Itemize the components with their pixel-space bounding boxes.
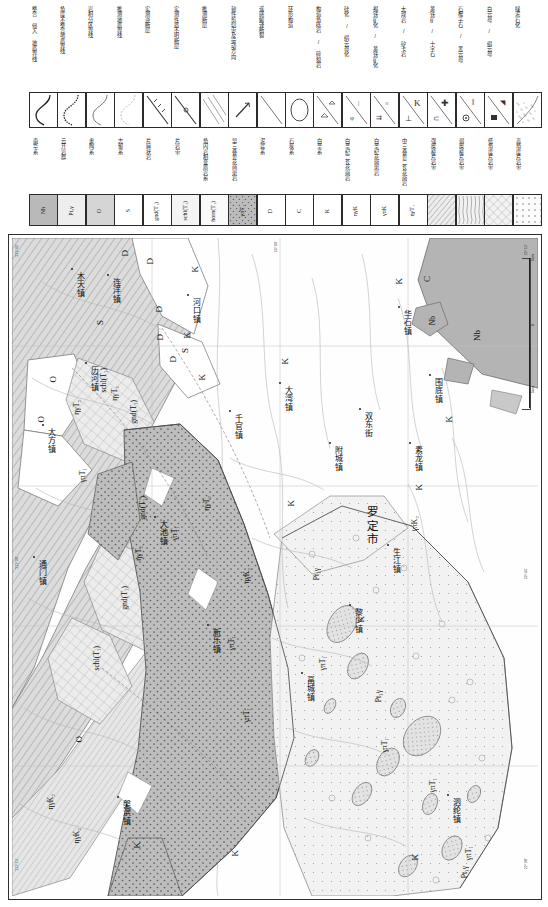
legend-structural-label: 整合 侵入 地质界线 [30,6,38,90]
svg-text:⊥: ⊥ [405,114,412,123]
legend-unit-label: 角闪岩相变质岩系 [202,138,210,194]
map-coordinate-label: 111°45' [15,244,19,257]
map-town-dot [229,410,231,412]
legend-unit-item: 白垩纪花岗斑岩γπK [369,138,399,230]
map-unit-code: D [154,306,164,313]
map-unit-code: ηγT₂ [110,386,119,401]
map-town-dot [85,362,87,364]
legend-structural-item: 构造角砾岩 / 碎裂岩 [312,6,342,130]
map-city-label: 罗定市 [364,506,380,547]
map-town-label: 大方镇 [45,428,56,453]
legend-unit-label: 片岩带 [173,138,181,194]
map-town-label: 大湾镇 [282,386,293,411]
map-unit-code: K [132,842,142,849]
map-unit-code: γπT₁ [428,778,437,792]
legend-unit-label: 白垩纪二长花岗岩 [344,138,352,194]
legend-unit-code-wrap: schl(T₁) [171,196,198,226]
map-town-label: 生江镇 [390,548,401,573]
scale-bar: 5km 0 5km [518,250,540,416]
map-unit-code: gnd(T₁) [129,400,138,424]
map-town-dot [447,794,449,796]
legend-structural-item: 推测断层 [199,6,229,130]
map-unit-code: O [36,416,46,423]
map-unit-code: γπT₁ [170,526,179,540]
map-unit-code: γπT₁ [318,656,327,670]
legend-unit-item: 低角度片岩带 [483,138,513,230]
legend-structural-label: 环形构造 [286,6,294,90]
legend-structural-label: 白云母 / 绢云母 [485,6,493,90]
legend-structural-label: 推测地质界线 [115,6,123,90]
legend-structural-item: 韧性剪切带及运动方向 [227,6,257,130]
legend-symbol-garnet: ‖ [456,92,485,128]
legend-unit-label: 强糜棱片岩带 [429,138,437,194]
legend-unit-label: 石炭系 [287,138,295,194]
legend-unit-code: schl(T₁) [182,201,188,220]
map-town-dot [349,604,351,606]
map-town-dot [387,544,389,546]
map-town-label: 木天镇 [74,272,85,297]
map-unit-code: O [48,376,58,383]
legend-unit-code: O [96,209,102,213]
legend-unit-item: 云开岩群Pt₃γ [56,138,86,230]
scale-bar-label-zero: 0 [531,324,535,326]
legend-unit-code-wrap: K [313,196,340,226]
legend-unit-code-wrap: ηγT₁ [399,196,426,226]
legend-structural-symbols: 整合 侵入 地质界线角度不整合地质界线岩相分区界线推测地质界线实测逆断层实测性质… [28,6,540,130]
legend-structural-item: 实测性质不明断层 [170,6,200,130]
map-unit-code: K [394,278,404,285]
map-town-label: 双东街 [362,412,373,437]
legend-symbol-limonite: ⇉≡ [370,92,399,128]
legend-unit-item: 角闪岩相变质岩系horn(T₁) [199,138,229,230]
legend-geologic-units: 南华系Nh云开岩群Pt₃γ奥陶系O志留系S片麻状岩gnd(T₁)片岩带schl(… [28,138,540,230]
svg-text:≡: ≡ [385,100,389,108]
legend-unit-item: 泥盆系D [256,138,286,230]
geological-map-panel[interactable]: 罗定市木天镇连洋镇历河镇河口镇大方镇大湾镇千官镇大池镇华石镇围底镇双东街附城镇素… [8,234,542,900]
map-unit-code: K [286,500,296,507]
scale-bar-label-right: 5km [531,386,535,393]
map-unit-code: ηγT₂ [202,496,211,511]
svg-text:|: | [358,99,359,107]
legend-symbol-s-curve-thin [86,92,115,128]
legend-structural-item: 岩相分区界线 [85,6,115,130]
map-town-label: 华石镇 [401,310,412,335]
map-canvas[interactable]: 罗定市木天镇连洋镇历河镇河口镇大方镇大湾镇千官镇大池镇华石镇围底镇双东街附城镇素… [12,238,538,896]
legend-unit-label: 南华系 [31,138,39,194]
map-town-dot [107,274,109,276]
map-unit-code: ηγK₂ [72,828,81,843]
legend-structural-label: 推测断层 [201,6,209,90]
legend-symbol-chlorite [513,92,542,128]
legend-unit-item: 片麻状岩gnd(T₁) [142,138,172,230]
map-unit-code: γπT₁ [380,738,389,752]
legend-unit-code-wrap: D [257,196,284,226]
map-unit-code: γπT₁ [227,636,236,650]
legend-structural-label: 绿泥石化 [514,6,522,90]
map-town-label: 河口镇 [190,298,201,323]
legend-structural-label: 构造角砾岩 / 碎裂岩 [314,6,322,90]
legend-structural-item: 白云母 / 绢云母◥ [483,6,513,130]
legend-unit-item: 弱糜棱片岩带 [455,138,485,230]
map-town-label: 大池镇 [157,520,168,545]
legend-structural-item: 黄铁矿 / 十字石⊂✚ [426,6,456,130]
legend-structural-item: 环形构造 [284,6,314,130]
legend-unit-label: 早三叠世花岗斑岩 [230,138,238,194]
legend-unit-label: 白垩纪花岗斑岩 [372,138,380,194]
legend-symbol-remote-fault [257,92,286,128]
map-unit-code: γπK₂ [410,516,419,531]
map-unit-code: γπT₁ [464,846,473,860]
legend-unit-item: 早三叠世花岗斑岩γπT₁ [227,138,257,230]
legend-structural-item: 遥感解译断裂 [256,6,286,130]
legend-structural-label: 褐铁矿化 / 黄铁矿化 [371,6,379,90]
map-unit-code: D [145,258,155,265]
map-unit-code: S [180,348,190,353]
legend-structural-item: 褐铁矿化 / 黄铁矿化⇉≡ [369,6,399,130]
legend-unit-label: 奥陶系 [88,138,96,194]
legend-unit-item: 白垩纪二长花岗岩ηγK [341,138,371,230]
legend-unit-code: ηγT₁ [409,205,415,217]
map-unit-code: ηγT₂ [72,400,81,415]
svg-text:φ: φ [350,114,354,122]
map-unit-code: K [414,484,424,491]
map-unit-code: C [422,276,432,282]
legend-symbol-ring-structure [285,92,314,128]
svg-text:⇉: ⇉ [376,114,382,122]
legend-structural-item: 大理岩 / 矽卡岩⊥K [398,6,428,130]
